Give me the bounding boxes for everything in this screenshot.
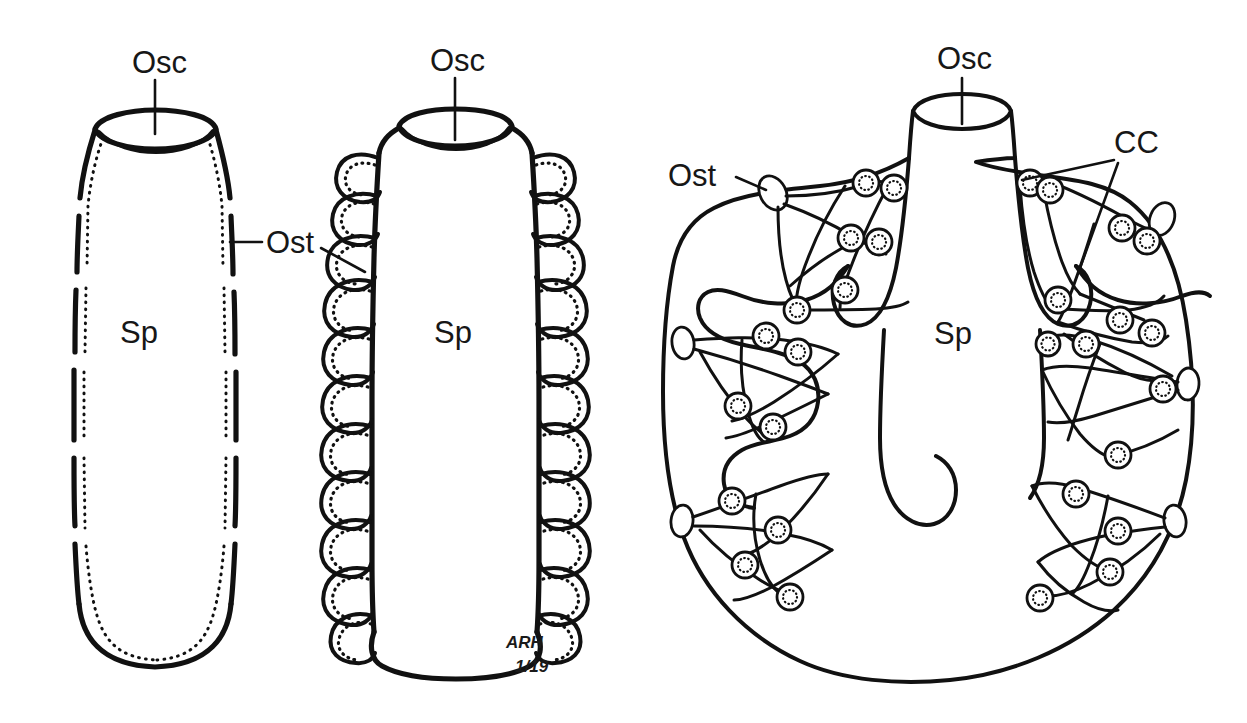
leuconoid-canal-group-lower-right	[1027, 481, 1165, 611]
panel-leuconoid: Osc Ost CC Sp	[663, 41, 1210, 682]
leuconoid-ostium-node-lower-right	[1162, 504, 1188, 539]
syconoid-neck-right	[512, 128, 532, 153]
leuconoid-spongocoel-mid-right	[1076, 266, 1210, 303]
panel-syconoid: Osc Sp ARH 1/19	[321, 43, 590, 679]
asconoid-spongocoel-label: Sp	[120, 315, 158, 350]
asconoid-wall-left-3	[75, 290, 76, 352]
asconoid-choanocyte-lining-right	[156, 138, 226, 660]
syconoid-spongocoel-wall-right	[532, 153, 539, 632]
leuconoid-ostium-node-lower-left	[669, 504, 694, 538]
asconoid-choanocyte-lining-left	[84, 138, 156, 660]
asconoid-wall-left-6	[75, 544, 79, 604]
leuconoid-ostium-label: Ost	[668, 158, 717, 193]
asconoid-wall-left-2	[77, 216, 79, 272]
leuconoid-osculum-shaft-left	[909, 111, 913, 158]
leuconoid-osculum-label: Osc	[937, 41, 992, 76]
syconoid-spongocoel-label: Sp	[434, 315, 472, 350]
cc-leader-lower	[1080, 163, 1118, 268]
leuconoid-chamber-label: CC	[1114, 125, 1159, 160]
syconoid-neck-left	[379, 128, 399, 153]
leuconoid-spongocoel-center-column	[880, 330, 956, 525]
leuconoid-ostium-node-upper-left	[753, 171, 793, 215]
leuconoid-ostium-node-mid-left	[670, 326, 696, 361]
sponge-body-plans-diagram: Osc Sp Ost	[0, 0, 1247, 723]
asconoid-wall-right-2	[231, 216, 233, 274]
asconoid-wall-right-3	[234, 292, 235, 354]
artist-date: 1/19	[515, 657, 549, 676]
asconoid-wall-right-5	[235, 458, 236, 526]
asconoid-wall-left-1	[80, 130, 95, 198]
syconoid-osculum-label: Osc	[430, 43, 485, 78]
ostium-callout: Ost	[230, 225, 365, 272]
asconoid-wall-right-1	[216, 130, 230, 198]
figure-canvas: Osc Sp Ost	[0, 0, 1247, 723]
panel-asconoid: Osc Sp	[74, 45, 236, 667]
leuconoid-canal-group-mid-right	[1036, 331, 1178, 468]
leuconoid-ostium-node-mid-right	[1176, 367, 1200, 400]
asconoid-wall-left-5	[74, 458, 75, 526]
asconoid-wall-right-6	[231, 544, 235, 604]
leuconoid-spongocoel-label: Sp	[934, 316, 972, 351]
artist-initials: ARH	[505, 633, 544, 652]
asconoid-base	[79, 604, 231, 667]
syconoid-spongocoel-wall-left	[372, 153, 379, 632]
ostium-label: Ost	[266, 225, 315, 260]
leuconoid-osculum-shaft-right	[1011, 111, 1015, 158]
asconoid-osculum-label: Osc	[132, 45, 187, 80]
